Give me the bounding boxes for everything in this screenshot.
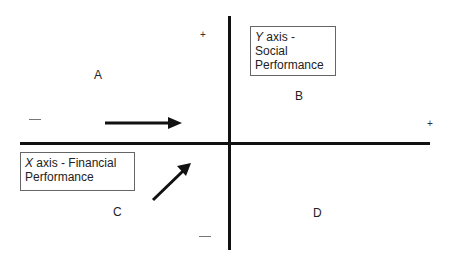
diagonal-arrow-icon: [153, 163, 191, 200]
arrows-layer: [0, 0, 452, 261]
horizontal-arrow-icon: [105, 117, 182, 129]
